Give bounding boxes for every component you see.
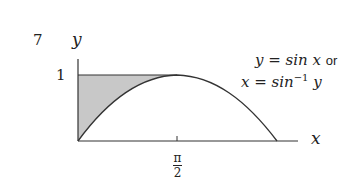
curve-eq-2-sup: −1	[294, 72, 309, 83]
curve-label-line2: x = sin−1 y	[238, 69, 358, 91]
x-axis-label: x	[311, 130, 321, 147]
y-axis-label: y	[72, 31, 82, 48]
curve-label-line1: y = sin x or	[238, 52, 358, 69]
x-tick-numerator: π	[169, 152, 186, 164]
x-tick-denominator: 2	[169, 167, 186, 179]
curve-eq-2-right: y	[308, 73, 321, 91]
shaded-region	[78, 75, 177, 141]
curve-or: or	[326, 53, 338, 68]
y-tick-label: 1	[56, 66, 66, 84]
curve-eq-2-left: x = sin	[241, 73, 294, 91]
curve-eq-1: y = sin x	[255, 51, 321, 69]
x-tick-label: π 2	[169, 152, 186, 179]
curve-label: y = sin x or x = sin−1 y	[238, 52, 358, 91]
